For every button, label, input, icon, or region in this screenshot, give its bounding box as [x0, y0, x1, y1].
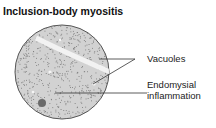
stipple-dot [15, 117, 16, 118]
stipple-dot [49, 103, 50, 104]
stipple-dot [57, 77, 58, 78]
stipple-dot [53, 76, 54, 77]
stipple-dot [26, 110, 27, 111]
stipple-dot [107, 118, 108, 119]
stipple-dot [95, 96, 96, 97]
stipple-dot [48, 85, 49, 86]
stipple-dot [74, 47, 75, 48]
stipple-dot [37, 73, 38, 74]
stipple-dot [106, 100, 107, 101]
stipple-dot [71, 39, 72, 40]
stipple-dot [25, 64, 26, 65]
stipple-dot [38, 64, 39, 65]
stipple-dot [77, 72, 78, 73]
stipple-dot [65, 65, 66, 66]
stipple-dot [30, 39, 31, 40]
stipple-dot [91, 78, 92, 79]
stipple-dot [78, 53, 79, 54]
inflammatory-cell [38, 99, 46, 107]
stipple-dot [88, 90, 89, 91]
stipple-dot [69, 111, 70, 112]
stipple-dot [23, 40, 24, 41]
stipple-dot [61, 64, 62, 65]
stipple-dot [59, 66, 60, 67]
stipple-dot [56, 61, 57, 62]
stipple-dot [38, 96, 39, 97]
stipple-dot [31, 100, 32, 101]
stipple-dot [62, 79, 63, 80]
stipple-dot [52, 52, 53, 53]
stipple-dot [31, 43, 32, 44]
stipple-dot [33, 116, 34, 117]
stipple-dot [94, 90, 95, 91]
stipple-dot [51, 34, 52, 35]
stipple-dot [31, 103, 32, 104]
stipple-dot [91, 95, 92, 96]
label-endomysial: Endomysial [147, 79, 196, 90]
stipple-dot [17, 40, 18, 41]
stipple-dot [83, 91, 84, 92]
stipple-dot [43, 119, 44, 120]
stipple-dot [47, 62, 48, 63]
stipple-dot [81, 99, 82, 100]
stipple-dot [71, 62, 72, 63]
stipple-dot [17, 54, 18, 55]
stipple-dot [75, 103, 76, 104]
stipple-dot [70, 102, 71, 103]
stipple-dot [29, 73, 30, 74]
stipple-dot [81, 97, 82, 98]
stipple-dot [18, 94, 19, 95]
stipple-dot [85, 85, 86, 86]
stipple-dot [54, 77, 55, 78]
stipple-dot [73, 66, 74, 67]
stipple-dot [18, 81, 19, 82]
stipple-dot [65, 104, 66, 105]
stipple-dot [102, 63, 103, 64]
stipple-dot [23, 38, 24, 39]
stipple-dot [108, 86, 109, 87]
stipple-dot [41, 80, 42, 81]
stipple-dot [63, 110, 64, 111]
stipple-dot [85, 37, 86, 38]
stipple-dot [65, 75, 66, 76]
stipple-dot [49, 95, 50, 96]
stipple-dot [81, 90, 82, 91]
stipple-dot [27, 100, 28, 101]
stipple-dot [66, 110, 67, 111]
stipple-dot [36, 58, 37, 59]
stipple-dot [25, 53, 26, 54]
stipple-dot [21, 37, 22, 38]
stipple-dot [72, 87, 73, 88]
stipple-dot [94, 119, 95, 120]
stipple-dot [103, 115, 104, 116]
stipple-dot [25, 31, 26, 32]
stipple-dot [60, 60, 61, 61]
stipple-dot [96, 116, 97, 117]
stipple-dot [94, 115, 95, 116]
stipple-dot [82, 27, 83, 28]
stipple-dot [51, 99, 52, 100]
stipple-dot [90, 90, 91, 91]
stipple-dot [67, 101, 68, 102]
stipple-dot [72, 61, 73, 62]
stipple-dot [60, 87, 61, 88]
stipple-dot [54, 36, 55, 37]
stipple-dot [99, 50, 100, 51]
stipple-dot [63, 96, 64, 97]
stipple-dot [74, 60, 75, 61]
stipple-dot [33, 113, 34, 114]
stipple-dot [93, 95, 94, 96]
stipple-dot [36, 114, 37, 115]
stipple-dot [62, 73, 63, 74]
stipple-dot [60, 102, 61, 103]
stipple-dot [32, 30, 33, 31]
stipple-dot [106, 109, 107, 110]
stipple-dot [82, 85, 83, 86]
stipple-dot [55, 110, 56, 111]
stipple-dot [49, 63, 50, 64]
stipple-dot [81, 78, 82, 79]
stipple-dot [94, 53, 95, 54]
stipple-dot [84, 54, 85, 55]
stipple-dot [69, 45, 70, 46]
stipple-dot [57, 42, 58, 43]
